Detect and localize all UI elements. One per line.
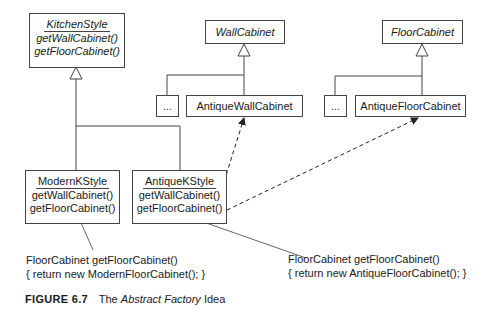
figure-caption: FIGURE 6.7 The Abstract Factory Idea <box>25 293 225 305</box>
caption-italic: Abstract Factory <box>121 293 201 305</box>
class-name: AntiqueKStyle <box>143 175 216 189</box>
wallcabinet-generalization <box>167 44 250 95</box>
method: getFloorCabinet() <box>30 45 124 58</box>
class-name: AntiqueWallCabinet <box>196 100 292 113</box>
class-name: ... <box>331 100 340 113</box>
class-antiquewallcabinet: AntiqueWallCabinet <box>186 95 303 117</box>
note-line: { return new AntiqueFloorCabinet(); } <box>288 266 467 280</box>
floorcabinet-generalization <box>335 44 428 95</box>
dependency-arrow-floor <box>227 118 418 210</box>
class-wallcabinet: WallCabinet <box>205 20 285 44</box>
class-floor-ellipsis: ... <box>324 95 347 117</box>
class-name: AntiqueFloorCabinet <box>360 100 460 113</box>
class-name: WallCabinet <box>215 26 274 39</box>
class-name: FloorCabinet <box>391 26 454 39</box>
note-line: { return new ModernFloorCabinet(); } <box>26 267 205 281</box>
kitchenstyle-generalization <box>70 67 180 170</box>
caption-prefix: The <box>99 293 118 305</box>
note-line: FloorCabinet getFloorCabinet() <box>26 253 205 267</box>
caption-suffix: Idea <box>204 293 225 305</box>
note-antique: FloorCabinet getFloorCabinet() { return … <box>288 252 467 280</box>
class-modernkstyle: ModernKStyle getWallCabinet() getFloorCa… <box>25 170 120 224</box>
class-floorcabinet: FloorCabinet <box>382 20 463 44</box>
method: getWallCabinet() <box>26 189 119 202</box>
class-antiquefloorcabinet: AntiqueFloorCabinet <box>355 95 466 117</box>
method: getFloorCabinet() <box>26 202 119 215</box>
class-name: KitchenStyle <box>44 18 109 32</box>
class-antiquekstyle: AntiqueKStyle getWallCabinet() getFloorC… <box>132 170 227 224</box>
method: getFloorCabinet() <box>133 202 226 215</box>
class-kitchenstyle: KitchenStyle getWallCabinet() getFloorCa… <box>29 13 125 68</box>
note-modern: FloorCabinet getFloorCabinet() { return … <box>26 253 205 281</box>
method: getWallCabinet() <box>30 32 124 45</box>
figure-label: FIGURE 6.7 <box>25 293 88 305</box>
class-name: ... <box>163 100 172 113</box>
note-line: FloorCabinet getFloorCabinet() <box>288 252 467 266</box>
class-wall-ellipsis: ... <box>156 95 179 117</box>
class-name: ModernKStyle <box>36 175 109 189</box>
method: getWallCabinet() <box>133 189 226 202</box>
